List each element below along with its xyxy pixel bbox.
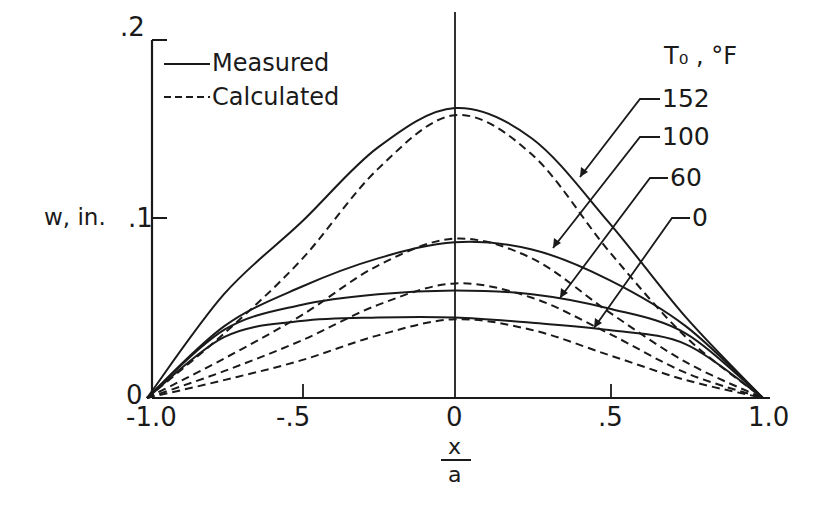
x-axis-label-numerator: x: [448, 436, 461, 458]
x-tick-label-m05: -.5: [276, 404, 310, 430]
leader-60: [560, 178, 668, 298]
plot-area: [0, 0, 827, 509]
y-tick-label-01: .1: [128, 205, 153, 231]
curve-label-0: 0: [692, 205, 708, 230]
x-tick-label-05: .5: [598, 404, 623, 430]
x-tick-label-m1: -1.0: [126, 404, 177, 430]
curve-label-60: 60: [670, 165, 702, 190]
x-tick-label-0: 0: [446, 404, 463, 430]
curve-label-100: 100: [662, 124, 710, 149]
leader-152: [580, 99, 660, 177]
y-axis-label: w, in.: [44, 206, 106, 229]
leader-100: [553, 137, 660, 248]
leader-arrowheads: [553, 167, 602, 328]
curve-label-152: 152: [662, 86, 710, 111]
temperature-title: T₀ , °F: [664, 44, 737, 68]
x-tick-label-1: 1.0: [748, 404, 789, 430]
legend-measured-label: Measured: [212, 51, 329, 75]
legend-calculated-label: Calculated: [212, 85, 339, 109]
y-tick-label-02: .2: [120, 14, 145, 40]
x-axis-label-denominator: a: [448, 464, 461, 486]
